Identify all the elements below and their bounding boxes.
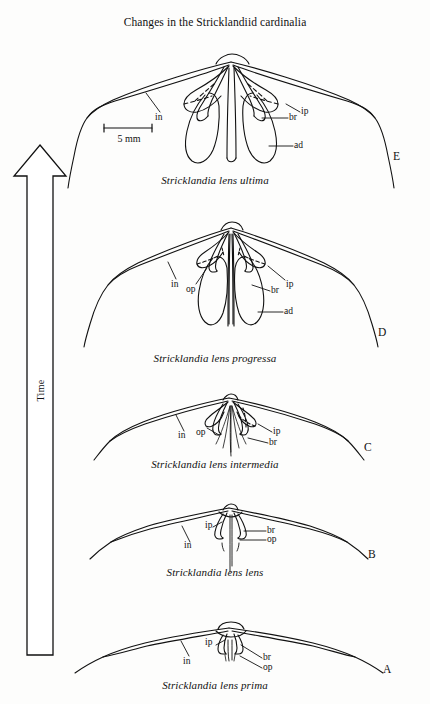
time-axis-label: Time: [35, 373, 46, 409]
label-B-op: op: [267, 535, 277, 545]
figure-root: Changes in the Stricklandiid cardinalia: [0, 0, 430, 704]
caption-specimen-B: Stricklandia lens lens: [0, 566, 430, 578]
panel-letter-D: D: [378, 326, 386, 338]
caption-specimen-E: Stricklandia lens ultima: [0, 174, 430, 186]
label-E-br: br: [289, 113, 297, 123]
label-B-in: in: [184, 541, 191, 551]
caption-specimen-D: Stricklandia lens progressa: [0, 352, 430, 364]
panel-letter-B: B: [368, 548, 376, 560]
label-C-br: br: [269, 438, 277, 448]
label-A-ip: ip: [205, 638, 212, 648]
panel-letter-C: C: [364, 441, 372, 453]
label-E-in: in: [155, 113, 162, 123]
label-E-ad: ad: [294, 141, 303, 151]
label-C-ip: ip: [273, 427, 280, 437]
label-A-in: in: [183, 657, 190, 667]
scale-bar-label: 5 mm: [105, 133, 153, 144]
specimen-drawing-E: [68, 54, 394, 188]
label-D-ad: ad: [284, 307, 293, 317]
specimen-drawing-A: [75, 622, 383, 673]
label-C-op: op: [196, 428, 206, 438]
label-D-ip: ip: [286, 280, 293, 290]
specimen-drawing-D: [84, 222, 378, 347]
caption-specimen-A: Stricklandia lens prima: [0, 679, 430, 691]
specimen-drawing-C: [94, 394, 364, 460]
panel-letter-E: E: [393, 150, 400, 162]
specimen-drawing-B: [90, 504, 368, 572]
label-D-in: in: [171, 280, 178, 290]
cropped-figure-caption: [0, 697, 430, 704]
label-B-ip: ip: [205, 521, 212, 531]
caption-specimen-C: Stricklandia lens intermedia: [0, 458, 430, 470]
label-A-op: op: [263, 663, 273, 673]
panel-letter-A: A: [383, 663, 391, 675]
label-D-br: br: [271, 286, 279, 296]
label-E-ip: ip: [301, 107, 308, 117]
label-D-op: op: [186, 285, 196, 295]
scale-bar: [104, 124, 152, 132]
label-C-in: in: [178, 431, 185, 441]
